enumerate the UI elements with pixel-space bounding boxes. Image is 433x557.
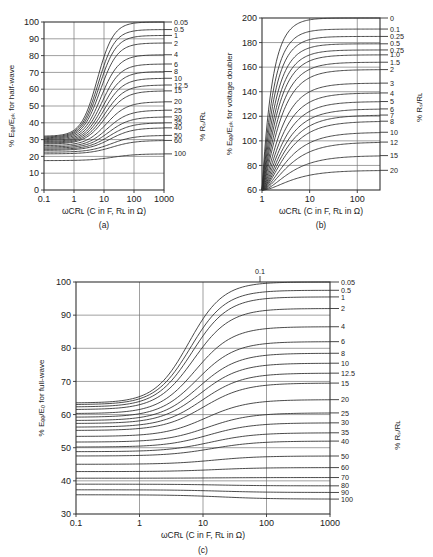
curve-label: 15 — [390, 151, 398, 160]
y-tick-label: 70 — [29, 68, 39, 78]
curve-label: 50 — [341, 452, 349, 461]
y-tick-label: 80 — [247, 161, 257, 171]
y-tick-label: 60 — [61, 410, 71, 420]
y-tick-label: 20 — [29, 152, 39, 162]
x-tick-label: 1 — [71, 194, 76, 204]
curve-label: 3 — [390, 79, 394, 88]
curve-label: 2 — [341, 304, 345, 313]
x-tick-label: 10 — [305, 194, 315, 204]
right-axis-title: % Rₛ/Rʟ — [415, 93, 424, 122]
curve-label: 4 — [174, 50, 178, 59]
curve-label: 15 — [341, 379, 349, 388]
y-tick-label: 90 — [61, 310, 71, 320]
curve-label: 60 — [174, 136, 182, 145]
curve-label: 60 — [341, 463, 349, 472]
y-tick-label: 100 — [56, 277, 71, 287]
curve-label-group: 0.050.5124681012.51520253035405060708090… — [330, 278, 355, 504]
x-tick-label: 10 — [198, 518, 208, 528]
curve-label: 12 — [390, 138, 398, 147]
x-tick-label: 1 — [137, 518, 142, 528]
y-tick-label: 80 — [29, 51, 39, 61]
gridlines — [44, 22, 164, 190]
y-tick-label: 50 — [29, 101, 39, 111]
curve-label: 4 — [341, 322, 345, 331]
y-tick-label: 120 — [242, 111, 257, 121]
panel-label: (c) — [198, 545, 208, 555]
y-tick-label: 40 — [29, 118, 39, 128]
y-axis: 6080100120140160180200 — [242, 13, 262, 195]
chart-panel-c: 304050607080901000.111010010000.050.5124… — [28, 240, 418, 557]
chart-panel-b: 608010012014016018020011010000.10.250.50… — [216, 0, 433, 230]
y-tick-label: 70 — [61, 377, 71, 387]
y-tick-label: 200 — [242, 13, 257, 23]
chart-b-svg: 608010012014016018020011010000.10.250.50… — [216, 0, 433, 230]
curve-label: 10 — [390, 128, 398, 137]
chart-panel-a: 01020304050607080901000.111010010000.050… — [0, 0, 216, 230]
panel-label: (a) — [99, 220, 110, 230]
y-axis-title: % Eₑₑ/E₀ for full‑wave — [37, 359, 46, 436]
y-tick-label: 90 — [29, 34, 39, 44]
figure-root: 01020304050607080901000.111010010000.050… — [0, 0, 433, 557]
curve-label: 20 — [390, 166, 398, 175]
curve-label: 8 — [341, 349, 345, 358]
curve-label: 30 — [341, 418, 349, 427]
curve-label: 10 — [341, 359, 349, 368]
x-axis-title: ωCRʟ (C in F, Rʟ in Ω) — [161, 530, 245, 540]
curve-label: 1 — [341, 293, 345, 302]
curve — [262, 115, 380, 190]
x-tick-label: 100 — [350, 194, 365, 204]
curve-label: 2 — [390, 65, 394, 74]
y-tick-label: 160 — [242, 62, 257, 72]
y-tick-label: 140 — [242, 87, 257, 97]
curve-label: 8 — [390, 117, 394, 126]
top-annotation: 0.1 — [255, 267, 265, 276]
right-axis-title: % Rₛ/Rʟ — [393, 420, 402, 449]
curve-label: 12.5 — [341, 369, 355, 378]
curve-label-group: 0.050.5124681012.51520253035405060100 — [164, 18, 188, 159]
x-axis: 110100 — [259, 190, 364, 204]
y-tick-label: 80 — [61, 343, 71, 353]
gridlines — [76, 282, 330, 514]
x-axis-title: ωCRʟ (C in F, Rʟ in Ω) — [279, 206, 363, 216]
curve-label: 40 — [341, 437, 349, 446]
curve-label: 15 — [174, 86, 182, 95]
y-tick-label: 40 — [61, 476, 71, 486]
y-tick-label: 100 — [242, 136, 257, 146]
curve-label: 2 — [174, 39, 178, 48]
curve-label: 20 — [341, 395, 349, 404]
x-tick-label: 100 — [126, 194, 141, 204]
right-axis-title: % Rₛ/Rʟ — [198, 111, 207, 140]
x-tick-label: 0.1 — [70, 518, 83, 528]
curve-label-group: 00.10.250.50.751.01.5234567810121520 — [380, 14, 404, 175]
y-axis: 30405060708090100 — [56, 277, 76, 519]
chart-c-svg: 304050607080901000.111010010000.050.5124… — [28, 240, 418, 557]
x-tick-label: 100 — [259, 518, 274, 528]
curve-label: 6 — [341, 337, 345, 346]
y-axis-title: % Eₑₑ/Eₚₖ for half‑wave — [7, 64, 16, 147]
curve-label: 0 — [390, 14, 394, 23]
y-tick-label: 30 — [29, 135, 39, 145]
x-tick-label: 0.1 — [38, 194, 51, 204]
y-axis: 0102030405060708090100 — [24, 17, 44, 195]
curve-label: 100 — [174, 149, 186, 158]
curve — [262, 83, 380, 190]
y-tick-label: 60 — [29, 84, 39, 94]
y-tick-label: 60 — [247, 185, 257, 195]
x-tick-label: 10 — [99, 194, 109, 204]
x-axis: 0.11101001000 — [70, 514, 340, 528]
x-axis: 0.11101001000 — [38, 190, 174, 204]
y-axis-title: % Eₑₑ/Eₚₖ for voltage doubler — [225, 52, 234, 155]
y-tick-label: 10 — [29, 168, 39, 178]
y-tick-label: 180 — [242, 38, 257, 48]
x-tick-label: 1000 — [320, 518, 340, 528]
x-tick-label: 1000 — [154, 194, 174, 204]
curve — [76, 478, 330, 479]
curve — [262, 50, 380, 190]
curve-group — [262, 18, 380, 190]
y-tick-label: 50 — [61, 443, 71, 453]
curve-label: 25 — [341, 409, 349, 418]
chart-a-svg: 01020304050607080901000.111010010000.050… — [0, 0, 216, 230]
curve-label: 100 — [341, 495, 353, 504]
x-tick-label: 1 — [259, 194, 264, 204]
x-axis-title: ωCRʟ (C in F, Rʟ in Ω) — [62, 206, 146, 216]
